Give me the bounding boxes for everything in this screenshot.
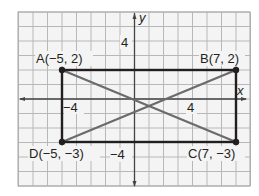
point-b <box>233 67 239 73</box>
point-c <box>233 139 239 145</box>
point-d <box>59 139 65 145</box>
x-tick-label-neg: −4 <box>63 100 78 115</box>
point-d-label: D(−5, −3) <box>29 146 84 161</box>
point-b-label: B(7, 2) <box>200 51 239 66</box>
coordinate-plane: x y 4 −4 −4 4 A(−5, 2) B(7, 2) C(7, −3) … <box>0 0 259 196</box>
y-tick-label-neg: −4 <box>110 147 125 162</box>
point-c-label: C(7, −3) <box>188 146 235 161</box>
point-a <box>59 67 65 73</box>
x-tick-label-pos: 4 <box>187 100 194 115</box>
x-axis-label: x <box>236 83 244 98</box>
point-a-label: A(−5, 2) <box>36 51 83 66</box>
y-tick-label-pos: 4 <box>121 35 128 50</box>
